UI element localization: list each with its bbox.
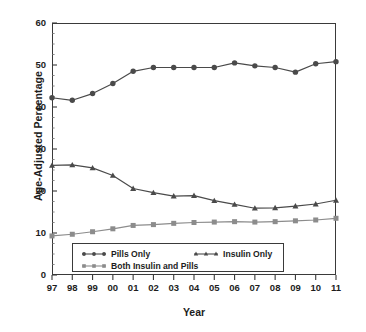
legend-label: Pills Only (111, 249, 150, 259)
triangle-marker-icon (193, 249, 219, 259)
data-point-square (252, 220, 257, 225)
square-marker-icon (81, 261, 107, 271)
data-point-circle (313, 61, 318, 66)
data-point-circle (293, 69, 298, 74)
data-point-circle (90, 91, 95, 96)
data-point-square (293, 218, 298, 223)
y-tick-label: 60 (16, 17, 46, 28)
data-point-circle (191, 65, 196, 70)
y-tick-label: 20 (16, 185, 46, 196)
data-point-square (192, 220, 197, 225)
data-point-circle (151, 65, 156, 70)
x-axis-title: Year (52, 306, 336, 318)
data-point-square (232, 219, 237, 224)
data-point-triangle (333, 197, 339, 202)
data-point-square (334, 216, 339, 221)
data-point-square (313, 217, 318, 222)
y-tick-label: 50 (16, 59, 46, 70)
data-point-circle (272, 65, 277, 70)
legend-item-pills-only: Pills Only (81, 248, 150, 260)
y-tick-label: 30 (16, 143, 46, 154)
data-point-circle (110, 81, 115, 86)
series-line (52, 165, 336, 208)
legend-item-insulin-only: Insulin Only (193, 248, 272, 260)
data-point-circle (232, 60, 237, 65)
chart-legend: Pills Only Insulin Only Both Insulin and… (72, 243, 284, 272)
data-point-circle (252, 63, 257, 68)
series-pills-only (49, 59, 338, 103)
y-tick-label: 0 (16, 269, 46, 280)
legend-item-both-insulin-and-pills: Both Insulin and Pills (81, 260, 198, 272)
data-point-square (90, 229, 95, 234)
data-point-triangle (130, 185, 136, 190)
data-point-square (212, 220, 217, 225)
data-point-circle (171, 65, 176, 70)
legend-label: Both Insulin and Pills (111, 261, 198, 271)
data-point-square (70, 232, 75, 237)
circle-marker-icon (81, 249, 107, 259)
data-point-circle (130, 69, 135, 74)
data-point-square (171, 221, 176, 226)
y-tick-label: 40 (16, 101, 46, 112)
data-point-square (151, 222, 156, 227)
data-point-circle (212, 65, 217, 70)
data-point-square (273, 219, 278, 224)
series-insulin-only (49, 162, 339, 211)
data-point-circle (333, 59, 338, 64)
axis-ticks (52, 23, 336, 280)
data-point-square (110, 226, 115, 231)
data-point-circle (49, 95, 54, 100)
y-tick-label: 10 (16, 227, 46, 238)
data-point-square (131, 223, 136, 228)
data-point-circle (70, 98, 75, 103)
series-both-insulin-and-pills (50, 216, 339, 239)
x-tick-label: 11 (323, 282, 349, 293)
legend-label: Insulin Only (223, 249, 272, 259)
chart-figure: Age-Adjusted Percentage 0102030405060 97… (0, 0, 366, 332)
data-series-layer (49, 59, 339, 239)
data-point-square (50, 233, 55, 238)
